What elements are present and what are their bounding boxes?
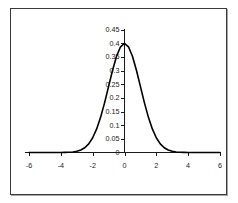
y-tick-label: 0.15 xyxy=(106,107,120,116)
y-tick-label: 0.35 xyxy=(106,52,120,61)
chart-svg-canvas: -6-4-20246 00.050.10.150.20.250.30.350.4… xyxy=(0,0,238,203)
y-tick-label: 0.4 xyxy=(110,39,120,48)
y-tick-label: 0.05 xyxy=(106,134,120,143)
x-tick-label: 0 xyxy=(123,161,127,170)
y-tick-label: 0.25 xyxy=(106,80,120,89)
x-tick-label: 2 xyxy=(154,161,158,170)
y-tick-label: 0 xyxy=(116,148,120,157)
x-tick-label: -2 xyxy=(89,161,95,170)
normal-distribution-chart: -6-4-20246 00.050.10.150.20.250.30.350.4… xyxy=(0,0,238,203)
y-tick-label: 0.2 xyxy=(110,93,120,102)
y-tick-label: 0.45 xyxy=(106,25,120,34)
x-axis-tick-labels: -6-4-20246 xyxy=(26,161,222,170)
y-tick-label: 0.3 xyxy=(110,66,120,75)
x-tick-label: 4 xyxy=(186,161,190,170)
figure-root: -6-4-20246 00.050.10.150.20.250.30.350.4… xyxy=(0,0,238,203)
x-tick-label: -4 xyxy=(58,161,64,170)
y-tick-label: 0.1 xyxy=(110,121,120,130)
x-tick-label: 6 xyxy=(218,161,222,170)
x-tick-label: -6 xyxy=(26,161,32,170)
